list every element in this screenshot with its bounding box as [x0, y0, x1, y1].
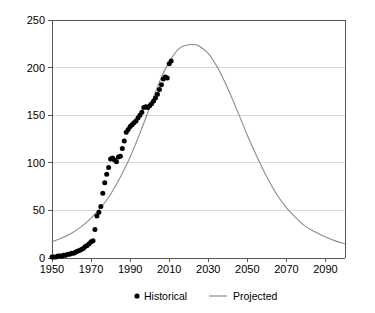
legend-historical-label: Historical	[144, 290, 187, 302]
data-point	[169, 58, 174, 63]
x-tick-label-1950: 1950	[40, 263, 64, 275]
x-tick-label-2070: 2070	[274, 263, 298, 275]
data-point	[139, 110, 144, 115]
data-point	[106, 165, 111, 170]
x-tick-label-2010: 2010	[157, 263, 181, 275]
data-point	[159, 82, 164, 87]
y-tick-label-50: 50	[33, 204, 45, 216]
data-point	[102, 180, 107, 185]
data-point	[91, 238, 96, 243]
data-point	[114, 159, 119, 164]
data-point	[157, 87, 162, 92]
data-point	[100, 191, 105, 196]
x-tick-label-2050: 2050	[235, 263, 259, 275]
x-tick-label-2090: 2090	[313, 263, 337, 275]
chart-container: 050100150200250 195019701990201020302050…	[0, 0, 375, 313]
data-point	[96, 210, 101, 215]
data-point	[92, 227, 97, 232]
data-point	[120, 146, 125, 151]
data-point	[104, 172, 109, 177]
x-tick-label-2030: 2030	[196, 263, 220, 275]
x-tick-label-1970: 1970	[79, 263, 103, 275]
data-point	[165, 76, 170, 81]
y-tick-label-200: 200	[27, 62, 45, 74]
y-tick-label-250: 250	[27, 14, 45, 26]
legend-historical-dot-icon	[134, 293, 139, 298]
x-tick-label-1990: 1990	[118, 263, 142, 275]
legend-projected-label: Projected	[233, 290, 278, 302]
y-tick-label-100: 100	[27, 157, 45, 169]
y-tick-label-150: 150	[27, 109, 45, 121]
data-point	[122, 138, 127, 143]
data-point	[98, 204, 103, 209]
data-point	[118, 154, 123, 159]
data-point	[155, 92, 160, 97]
population-projection-chart: 050100150200250 195019701990201020302050…	[0, 0, 375, 313]
